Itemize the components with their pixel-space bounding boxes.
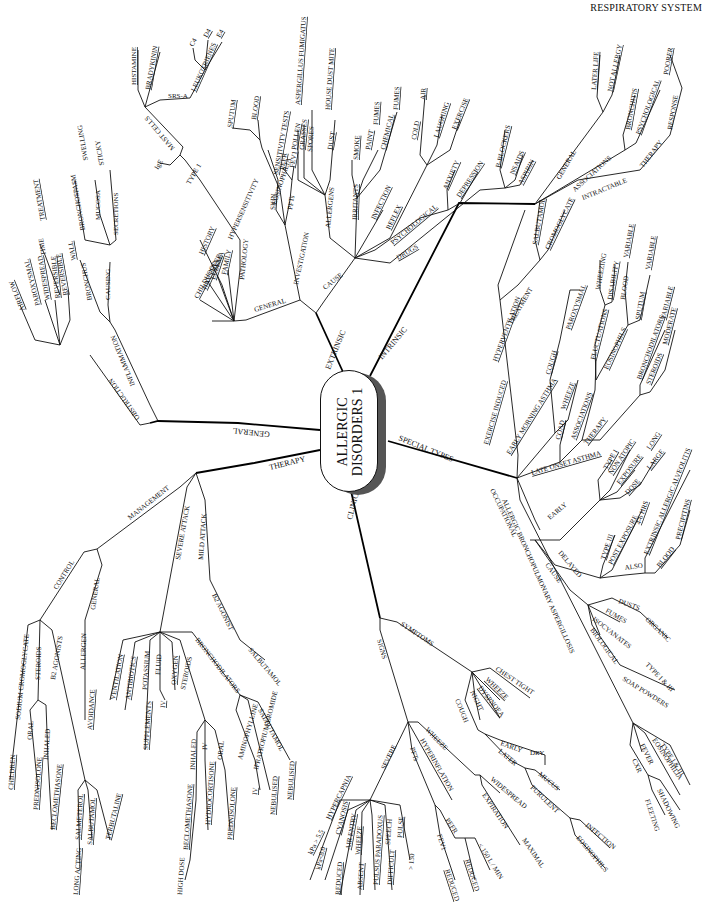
svg-text:EXERCISE INDUCED: EXERCISE INDUCED [482, 379, 508, 445]
svg-text:B2 AGONISTS: B2 AGONISTS [49, 635, 65, 680]
svg-text:ALLERGIC BRONCHOPULMONARY ASPE: ALLERGIC BRONCHOPULMONARY ASPERGILLOSIS [500, 498, 576, 655]
svg-text:CONTROL: CONTROL [52, 559, 76, 591]
svg-text:SPECIAL TYPES: SPECIAL TYPES [397, 434, 455, 464]
label-extrinsic: EXTRINSIC [324, 329, 348, 371]
svg-text:STEROIDS: STEROIDS [34, 646, 43, 680]
svg-text:SUPPLEMENTS: SUPPLEMENTS [142, 701, 153, 751]
svg-text:PRECIPITINS: PRECIPITINS [674, 498, 692, 540]
svg-text:SWELLING: SWELLING [76, 124, 90, 161]
svg-text:COUGH: COUGH [544, 349, 559, 375]
svg-text:OXYGEN: OXYGEN [170, 655, 180, 685]
svg-text:> 130: > 130 [407, 853, 416, 870]
svg-text:E4: E4 [215, 28, 226, 39]
svg-text:TIME: TIME [37, 238, 48, 256]
svg-text:STEROIDS: STEROIDS [179, 656, 194, 690]
svg-text:B2 AGONIST: B2 AGONIST [210, 592, 235, 632]
svg-text:FUMES: FUMES [604, 607, 628, 626]
svg-text:FUMES: FUMES [372, 101, 382, 125]
svg-text:PULSUS PARADOXUS: PULSUS PARADOXUS [372, 815, 385, 885]
svg-text:HISTAMINE: HISTAMINE [130, 47, 138, 85]
svg-text:DIFFICULT: DIFFICULT [386, 849, 396, 885]
svg-text:VARIABLE: VARIABLE [622, 223, 636, 258]
center-node: ALLERGIC DISORDERS 1 [320, 370, 378, 492]
svg-text:FUMES: FUMES [392, 86, 402, 110]
svg-text:MANAGEMENT: MANAGEMENT [126, 484, 171, 522]
svg-text:MUCOSA: MUCOSA [94, 190, 102, 220]
svg-text:IgE: IgE [153, 158, 165, 171]
svg-text:INHALED: INHALED [42, 729, 52, 761]
svg-text:STICKY: STICKY [94, 140, 106, 166]
svg-text:SPEECH: SPEECH [384, 819, 394, 846]
svg-text:CAUSING: CAUSING [104, 269, 112, 300]
svg-text:DRUGS: DRUGS [395, 243, 420, 262]
svg-text:AVOIDANCE: AVOIDANCE [86, 689, 97, 730]
svg-text:COLD: COLD [410, 120, 421, 140]
svg-text:4-6 HRS: 4-6 HRS [634, 500, 650, 526]
svg-text:TERBUTALINE: TERBUTALINE [104, 792, 123, 840]
svg-text:DISABILITY: DISABILITY [606, 260, 621, 300]
svg-text:DUST: DUST [326, 130, 337, 150]
svg-text:RESPONSE: RESPONSE [666, 94, 680, 130]
svg-text:ALLERGEN: ALLERGEN [79, 633, 88, 670]
svg-text:FLEETING: FLEETING [643, 798, 661, 832]
svg-text:THERAPY: THERAPY [582, 416, 608, 446]
svg-text:C4: C4 [188, 36, 199, 48]
svg-text:DRY: DRY [530, 749, 544, 757]
svg-text:ABSENT: ABSENT [356, 862, 366, 890]
svg-text:FEV1: FEV1 [435, 833, 448, 852]
svg-text:CHEMICAL: CHEMICAL [379, 113, 396, 150]
svg-text:SALBUTAMOL: SALBUTAMOL [86, 797, 97, 845]
svg-text:REDUCED: REDUCED [334, 862, 344, 896]
svg-text:LEUKOTRIENES: LEUKOTRIENES [190, 42, 219, 93]
svg-text:SPORES: SPORES [306, 126, 316, 152]
svg-text:IRRITANTS: IRRITANTS [351, 184, 360, 220]
svg-text:BRONCHODILATORS: BRONCHODILATORS [193, 636, 241, 695]
svg-text:GENERAL: GENERAL [555, 149, 578, 181]
svg-text:IV: IV [159, 700, 167, 708]
svg-text:HIGH DOSE: HIGH DOSE [176, 857, 187, 895]
svg-text:NOT ALLERGY: NOT ALLERGY [606, 44, 624, 93]
svg-text:GENERAL: GENERAL [89, 577, 101, 610]
svg-text:INVESTIGATION: INVESTIGATION [292, 232, 311, 286]
svg-text:WHEEZE: WHEEZE [354, 826, 364, 855]
svg-text:NEBULISED: NEBULISED [269, 776, 280, 815]
svg-text:ORGANIC: ORGANIC [644, 616, 673, 644]
svg-text:EXERCISE: EXERCISE [450, 97, 470, 131]
svg-text:POTASSIUM: POTASSIUM [141, 650, 152, 690]
svg-text:AIR: AIR [419, 87, 428, 100]
svg-text:B-BLOCKERS: B-BLOCKERS [494, 124, 512, 168]
svg-text:ASPERGILLUS FUMIGATUS: ASPERGILLUS FUMIGATUS [294, 16, 308, 105]
svg-text:WHEEZING: WHEEZING [594, 253, 608, 291]
svg-text:BLOOD: BLOOD [619, 275, 630, 300]
svg-text:PREDNISOLONE: PREDNISOLONE [226, 787, 238, 840]
svg-text:THERAPY: THERAPY [638, 139, 664, 169]
svg-text:ORAL: ORAL [26, 721, 35, 741]
svg-text:< 150 L / MIN: < 150 L / MIN [476, 842, 505, 881]
svg-text:VARIABLE: VARIABLE [644, 235, 658, 270]
svg-text:GENERAL: GENERAL [232, 426, 270, 439]
svg-text:LONG: LONG [645, 431, 663, 452]
svg-text:SPUTUM: SPUTUM [634, 290, 647, 320]
svg-text:ANXIETY: ANXIETY [442, 159, 462, 191]
svg-text:PAINT: PAINT [364, 129, 375, 151]
svg-text:IV: IV [251, 787, 259, 795]
svg-text:REDUCED: REDUCED [443, 868, 461, 902]
branch-extrinsic: EXTRINSIC GENERAL CHILDHOOD HAY FEVER EC… [130, 16, 537, 371]
svg-text:BRONCHUS: BRONCHUS [79, 262, 94, 301]
svg-text:COAD: COAD [554, 419, 567, 440]
svg-text:SEVERE: SEVERE [380, 744, 399, 771]
svg-text:LAUGHING: LAUGHING [432, 101, 451, 139]
svg-text:SECRETIONS: SECRETIONS [112, 193, 120, 236]
svg-text:SODIUM CROMOGLYCATE: SODIUM CROMOGLYCATE [14, 634, 31, 721]
svg-text:SMOKE: SMOKE [352, 135, 362, 160]
svg-text:EXPIRATION: EXPIRATION [480, 792, 510, 831]
svg-text:SALMETEROL: SALMETEROL [74, 793, 85, 840]
svg-text:ALSO: ALSO [624, 562, 643, 572]
svg-text:INHALED: INHALED [189, 739, 198, 770]
svg-text:MAXIMAL: MAXIMAL [520, 837, 546, 870]
svg-text:LATE ONSET ASTHMA: LATE ONSET ASTHMA [530, 449, 602, 477]
branch-clinical: CLINICAL SYMPTOMS CHEST TIGHT WHEEZE DYS… [307, 482, 618, 902]
svg-text:SKIN: SKIN [269, 193, 278, 210]
svg-text:PREDNISOLONE: PREDNISOLONE [32, 757, 44, 810]
svg-text:LARGE: LARGE [645, 448, 666, 471]
